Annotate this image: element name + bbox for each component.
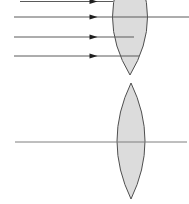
parallel-ray-4-arrowhead-icon [90, 53, 98, 58]
top-converging-lens-figure [14, 0, 189, 75]
parallel-ray-2-arrowhead-icon [90, 14, 98, 19]
parallel-ray-1-arrowhead-icon [90, 0, 98, 4]
parallel-ray-3-arrowhead-icon [90, 34, 98, 39]
lens-ray-diagram-svg [0, 0, 189, 204]
bottom-lens-on-axis-figure [15, 83, 187, 199]
biconvex-lens-bottom [117, 83, 145, 199]
optics-diagram [0, 0, 189, 204]
